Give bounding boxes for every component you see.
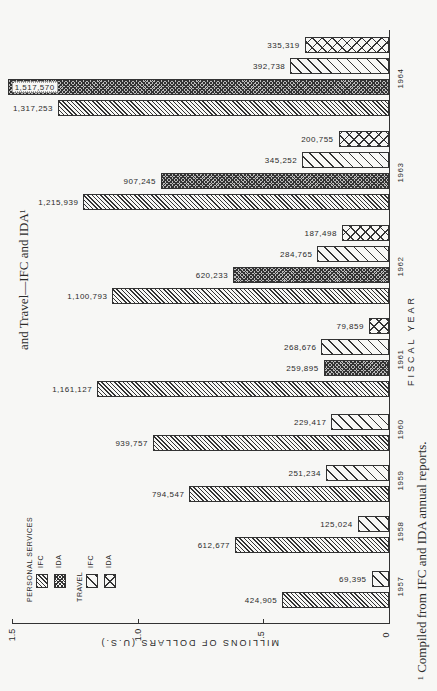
bar-1964-ps-ifc xyxy=(58,100,389,116)
legend-label-tr-ida: IDA xyxy=(105,555,112,568)
value-label: 125,024 xyxy=(320,520,352,529)
legend-swatch-tr-ida xyxy=(104,574,116,588)
axis-tick-label: .5 xyxy=(256,631,266,639)
chart-title: and Travel—IFC and IDA¹ xyxy=(16,209,32,350)
year-label-1957: 1957 xyxy=(396,572,405,602)
value-label: 335,319 xyxy=(267,41,299,50)
bar-1961-ps-ida xyxy=(324,360,389,376)
bar-1961-ps-ifc xyxy=(97,381,389,397)
year-label-1960: 1960 xyxy=(396,415,405,445)
legend-group-personal-services: PERSONAL SERVICES xyxy=(26,517,33,602)
category-axis-line xyxy=(389,30,390,624)
category-axis-label: FISCAL YEAR xyxy=(406,295,416,386)
bar-1964-ps-ida xyxy=(8,79,389,95)
year-label-1962: 1962 xyxy=(396,252,405,282)
value-label: 612,677 xyxy=(198,541,230,550)
value-label: 939,757 xyxy=(115,439,147,448)
value-label: 1,517,570 xyxy=(12,82,58,93)
value-label: 1,215,939 xyxy=(38,198,78,207)
axis-tick xyxy=(138,619,139,624)
value-axis-label: MILLIONS OF DOLLARS (U.S.) xyxy=(99,638,279,648)
bar-1963-tr-ifc xyxy=(302,152,389,168)
value-label: 251,234 xyxy=(288,469,320,478)
year-label-1959: 1959 xyxy=(396,466,405,496)
value-label: 259,895 xyxy=(286,364,318,373)
value-axis-line xyxy=(12,623,390,624)
value-label: 69,395 xyxy=(339,575,366,584)
axis-tick xyxy=(12,619,13,624)
value-label: 1,100,793 xyxy=(67,292,107,301)
bar-1961-tr-ifc xyxy=(321,339,389,355)
footnote: ¹ Compiled from IFC and IDA annual repor… xyxy=(414,441,430,680)
bar-1960-ps-ifc xyxy=(153,435,389,451)
bar-1964-tr-ifc xyxy=(290,58,389,74)
bar-1963-ps-ifc xyxy=(83,194,389,210)
value-label: 200,755 xyxy=(301,135,333,144)
bar-1963-tr-ida xyxy=(339,131,389,147)
axis-tick xyxy=(263,619,264,624)
bar-1962-ps-ifc xyxy=(112,288,389,304)
bar-1957-tr-ifc xyxy=(372,571,389,587)
legend-swatch-tr-ifc xyxy=(86,574,98,588)
bar-1963-ps-ida xyxy=(161,173,389,189)
legend-label-tr-ifc: IFC xyxy=(87,555,94,568)
value-label: 392,738 xyxy=(253,62,285,71)
value-label: 1,317,253 xyxy=(13,104,53,113)
bar-1960-tr-ifc xyxy=(331,414,389,430)
axis-tick-label: 1.5 xyxy=(7,629,17,642)
bar-1961-tr-ida xyxy=(369,318,389,334)
axis-tick-label: 0 xyxy=(381,632,391,637)
year-label-1961: 1961 xyxy=(396,345,405,375)
value-label: 229,417 xyxy=(294,418,326,427)
year-label-1963: 1963 xyxy=(396,158,405,188)
bar-1958-ps-ifc xyxy=(235,537,389,553)
value-label: 79,859 xyxy=(336,322,363,331)
value-label: 187,498 xyxy=(304,229,336,238)
bar-1964-tr-ida xyxy=(305,37,389,53)
bar-1957-ps-ifc xyxy=(282,592,389,608)
legend-label-ps-ida: IDA xyxy=(55,555,62,568)
legend-label-ps-ifc: IFC xyxy=(37,555,44,568)
value-label: 907,245 xyxy=(124,177,156,186)
bar-1962-tr-ifc xyxy=(317,246,389,262)
value-label: 284,765 xyxy=(280,250,312,259)
axis-tick-label: 1.0 xyxy=(133,629,143,642)
value-label: 424,905 xyxy=(245,596,277,605)
legend-swatch-ps-ifc xyxy=(36,574,48,588)
value-label: 345,252 xyxy=(265,156,297,165)
year-label-1964: 1964 xyxy=(396,64,405,94)
value-label: 620,233 xyxy=(196,271,228,280)
legend-swatch-ps-ida xyxy=(54,574,66,588)
value-label: 794,547 xyxy=(152,490,184,499)
value-label: 268,676 xyxy=(284,343,316,352)
year-label-1958: 1958 xyxy=(396,517,405,547)
bar-1959-ps-ifc xyxy=(189,486,389,502)
bar-1962-ps-ida xyxy=(233,267,389,283)
bar-1958-tr-ifc xyxy=(358,516,389,532)
axis-tick xyxy=(389,619,390,624)
value-label: 1,161,127 xyxy=(52,385,92,394)
legend-group-travel: TRAVEL xyxy=(76,572,83,602)
bar-1959-tr-ifc xyxy=(326,465,389,481)
bar-1962-tr-ida xyxy=(342,225,389,241)
